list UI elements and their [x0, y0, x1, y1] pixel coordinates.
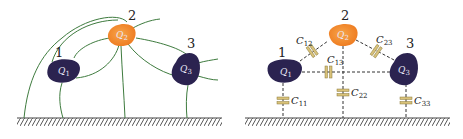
- conductor-3-left: 3 Q3: [172, 36, 200, 85]
- svg-text:3: 3: [406, 36, 414, 51]
- svg-text:3: 3: [187, 36, 195, 51]
- capacitor-c11: C11: [277, 95, 308, 108]
- capacitor-c13: C13: [325, 54, 344, 78]
- svg-text:1: 1: [278, 45, 286, 60]
- svg-text:C13: C13: [327, 54, 344, 67]
- svg-text:C23: C23: [376, 34, 393, 47]
- capacitor-c12: C12: [296, 35, 318, 58]
- conductor-1-right: 1 Q1: [267, 45, 302, 83]
- conductor-3-right: 3 Q3: [390, 36, 418, 85]
- diagram-canvas: 1 Q1 2 Q2 3 Q3: [0, 0, 463, 139]
- svg-text:C22: C22: [351, 87, 368, 100]
- capacitor-c33: C33: [400, 95, 431, 108]
- left-panel: 1 Q1 2 Q2 3 Q3: [17, 8, 222, 126]
- svg-text:C11: C11: [291, 95, 308, 108]
- capacitor-c23: C23: [370, 34, 392, 58]
- right-panel: C12 C13 C23 C11 C22 C33: [245, 8, 450, 126]
- ground-right: [245, 118, 450, 126]
- conductor-2-left: 2 Q2: [108, 8, 136, 46]
- svg-text:C33: C33: [414, 95, 431, 108]
- conductor-2-right: 2 Q2: [329, 8, 358, 46]
- capacitor-c22: C22: [337, 87, 368, 100]
- svg-text:1: 1: [55, 45, 63, 60]
- conductor-1-left: 1 Q1: [47, 45, 80, 83]
- svg-text:C12: C12: [296, 35, 313, 48]
- svg-text:2: 2: [341, 8, 349, 23]
- ground-left: [17, 118, 222, 126]
- svg-text:2: 2: [128, 8, 136, 23]
